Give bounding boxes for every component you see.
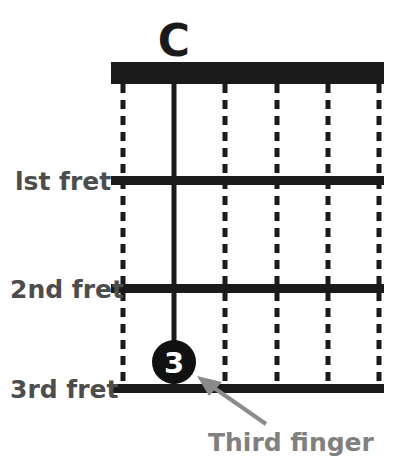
third-finger-label: Third finger — [208, 428, 375, 457]
fret-line-3 — [111, 384, 384, 393]
fret-label-1: lst fret — [15, 167, 111, 196]
nut-bar — [111, 62, 384, 84]
finger-dot-3-number: 3 — [164, 346, 184, 380]
chord-name-label: C — [158, 15, 190, 66]
chord-diagram-canvas: C lst fret 2nd fret 3rd fret 3 Third fin… — [0, 0, 396, 468]
fret-line-2 — [111, 284, 384, 293]
fret-label-2: 2nd fret — [10, 275, 124, 304]
fret-line-1 — [111, 176, 384, 185]
chord-diagram: C lst fret 2nd fret 3rd fret 3 Third fin… — [0, 0, 396, 468]
fret-label-3: 3rd fret — [10, 375, 118, 404]
